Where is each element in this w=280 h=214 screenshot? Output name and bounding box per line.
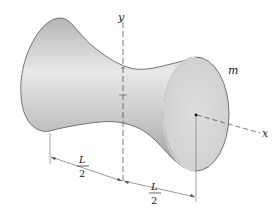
dimension-line-left bbox=[51, 157, 122, 181]
svg-text:L: L bbox=[78, 154, 86, 165]
center-point bbox=[195, 114, 198, 117]
svg-text:2: 2 bbox=[79, 168, 85, 179]
dimension-line-right bbox=[124, 181, 195, 197]
svg-text:L: L bbox=[150, 181, 158, 192]
half-length-label-right: L 2 bbox=[149, 181, 161, 206]
x-axis-label: x bbox=[262, 127, 269, 140]
mass-label: m bbox=[228, 64, 238, 77]
y-axis-label: y bbox=[117, 11, 125, 24]
hourglass-solid-diagram: y x m L 2 L 2 bbox=[0, 0, 280, 214]
svg-text:2: 2 bbox=[151, 195, 157, 206]
